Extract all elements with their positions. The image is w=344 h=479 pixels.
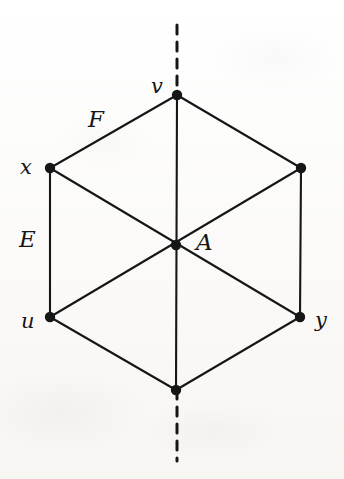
vertex-label-x: x xyxy=(20,157,32,178)
edge-ne-y xyxy=(300,168,301,317)
edge-label-E: E xyxy=(19,228,36,251)
edge-u-s xyxy=(50,317,176,390)
vertex-dot-ne xyxy=(296,163,306,173)
edge-v-ne xyxy=(177,95,301,168)
vertex-label-y: y xyxy=(315,310,327,331)
edge-v-x xyxy=(50,95,177,168)
hexagon-symmetry-figure: vxuyAFE xyxy=(0,0,344,479)
edge-y-s xyxy=(176,317,300,390)
diagram-canvas xyxy=(0,0,344,479)
vertex-label-v: v xyxy=(151,76,163,97)
vertex-label-A: A xyxy=(196,231,213,254)
vertex-label-u: u xyxy=(21,311,35,332)
vertex-dot-y xyxy=(295,312,305,322)
vertex-dot-A xyxy=(171,240,181,250)
vertex-dot-x xyxy=(45,163,55,173)
edge-label-F: F xyxy=(88,108,104,131)
vertex-dot-u xyxy=(45,312,55,322)
vertex-dot-v xyxy=(172,90,182,100)
vertex-dot-s xyxy=(171,385,181,395)
